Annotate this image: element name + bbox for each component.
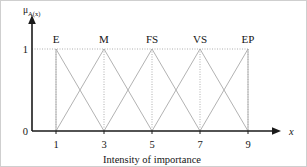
y-tick-labels-group: 1 0 xyxy=(23,44,28,137)
x-axis-arrowhead xyxy=(272,127,281,135)
x-tick-label-7: 7 xyxy=(197,139,202,150)
chart-canvas: μA(x) 1 0 1 3 5 7 9 E M FS VS EP x Inten… xyxy=(1,1,307,167)
x-tick-label-9: 9 xyxy=(245,139,250,150)
y-axis-name-subscript: A(x) xyxy=(28,10,40,18)
set-label-M: M xyxy=(99,33,109,45)
x-tick-label-1: 1 xyxy=(53,139,58,150)
x-tick-label-3: 3 xyxy=(101,139,106,150)
set-label-VS: VS xyxy=(193,33,207,45)
x-tick-labels-group: 1 3 5 7 9 xyxy=(53,139,250,150)
svg-text:μA(x): μA(x) xyxy=(23,5,40,18)
guide-lines-group xyxy=(32,49,248,131)
set-labels-group: E M FS VS EP xyxy=(53,33,255,45)
set-label-EP: EP xyxy=(242,33,255,45)
set-label-FS: FS xyxy=(146,33,158,45)
set-label-E: E xyxy=(53,33,60,45)
y-axis-name-group: μA(x) xyxy=(23,5,40,18)
x-axis-caption: Intensity of importance xyxy=(103,154,201,165)
fuzzy-membership-chart: μA(x) 1 0 1 3 5 7 9 E M FS VS EP x Inten… xyxy=(0,0,307,167)
x-tick-label-5: 5 xyxy=(149,139,154,150)
x-axis-name: x xyxy=(288,126,294,137)
y-tick-label-0: 0 xyxy=(23,126,28,137)
y-tick-label-1: 1 xyxy=(23,44,28,55)
